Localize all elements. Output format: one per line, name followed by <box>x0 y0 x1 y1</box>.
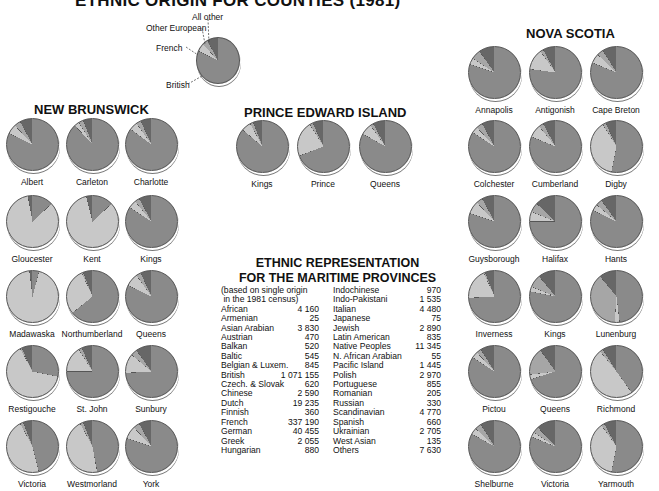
origin-count: 7 630 <box>419 446 441 455</box>
pie-chart <box>236 120 289 173</box>
pie-chart <box>468 420 521 473</box>
county-label: Richmond <box>577 404 655 414</box>
pie-chart <box>590 345 643 398</box>
heading-new-brunswick: NEW BRUNSWICK <box>34 102 149 117</box>
pie-chart <box>468 195 521 248</box>
table-left-column: (based on single origin in the 1981 cens… <box>221 286 319 455</box>
county-pie-nova-scotia-cape-breton: Cape Breton <box>587 46 645 115</box>
county-pie-nova-scotia-colchester: Colchester <box>465 120 523 189</box>
pie-chart <box>590 46 643 99</box>
pie-chart <box>66 270 119 323</box>
county-pie-new-brunswick-charlotte: Charlotte <box>122 118 180 187</box>
pie-chart <box>6 345 59 398</box>
county-pie-new-brunswick-sunbury: Sunbury <box>122 345 180 414</box>
county-pie-nova-scotia-cumberland: Cumberland <box>526 120 584 189</box>
pie-chart <box>529 345 582 398</box>
county-pie-new-brunswick-queens: Queens <box>122 270 180 339</box>
pie-chart <box>6 118 59 171</box>
pie-chart <box>66 420 119 473</box>
table-row: Others7 630 <box>333 446 441 455</box>
pie-chart <box>590 195 643 248</box>
pie-chart <box>125 195 178 248</box>
county-label: Digby <box>577 179 655 189</box>
pie-chart <box>125 118 178 171</box>
pie-chart <box>590 270 643 323</box>
pie-chart <box>590 420 643 473</box>
pie-chart <box>529 420 582 473</box>
county-pie-prince-edward-island-prince: Prince <box>294 120 352 189</box>
county-pie-nova-scotia-queens: Queens <box>526 345 584 414</box>
county-label: Queens <box>346 179 424 189</box>
table-row: Hungarian880 <box>221 446 319 455</box>
pie-chart <box>468 270 521 323</box>
county-label: Hants <box>577 254 655 264</box>
county-pie-prince-edward-island-queens: Queens <box>356 120 414 189</box>
county-pie-nova-scotia-yarmouth: Yarmouth <box>587 420 645 489</box>
table-title: ETHNIC REPRESENTATION FOR THE MARITIME P… <box>220 256 455 286</box>
county-label: Lunenburg <box>577 329 655 339</box>
county-pie-nova-scotia-hants: Hants <box>587 195 645 264</box>
county-pie-nova-scotia-digby: Digby <box>587 120 645 189</box>
county-pie-nova-scotia-pictou: Pictou <box>465 345 523 414</box>
pie-chart <box>6 420 59 473</box>
table-title-line1: ETHNIC REPRESENTATION <box>220 256 455 271</box>
pie-chart <box>468 46 521 99</box>
pie-chart <box>6 195 59 248</box>
county-pie-nova-scotia-guysborough: Guysborough <box>465 195 523 264</box>
pie-chart <box>66 118 119 171</box>
county-pie-prince-edward-island-kings: Kings <box>233 120 291 189</box>
county-pie-nova-scotia-victoria: Victoria <box>526 420 584 489</box>
pie-chart <box>468 345 521 398</box>
county-pie-new-brunswick-kings: Kings <box>122 195 180 264</box>
table-title-line2: FOR THE MARITIME PROVINCES <box>220 271 455 286</box>
county-pie-nova-scotia-inverness: Inverness <box>465 270 523 339</box>
county-label: Queens <box>112 329 190 339</box>
county-pie-nova-scotia-annapolis: Annapolis <box>465 46 523 115</box>
pie-chart <box>125 420 178 473</box>
heading-prince-edward-island: PRINCE EDWARD ISLAND <box>244 105 407 120</box>
heading-nova-scotia: NOVA SCOTIA <box>526 26 615 41</box>
pie-chart <box>529 195 582 248</box>
origin-count: 880 <box>305 446 319 455</box>
pie-chart <box>66 345 119 398</box>
origin-name: Others <box>333 446 359 455</box>
county-label: York <box>112 479 190 489</box>
county-pie-nova-scotia-shelburne: Shelburne <box>465 420 523 489</box>
county-label: Charlotte <box>112 177 190 187</box>
origin-name: Hungarian <box>221 446 261 455</box>
pie-chart <box>468 120 521 173</box>
pie-chart <box>297 120 350 173</box>
pie-chart <box>529 270 582 323</box>
table-right-column: Indochinese970Indo-Pakistani1 535Italian… <box>333 286 441 455</box>
pie-chart <box>125 345 178 398</box>
county-label: Yarmouth <box>577 479 655 489</box>
county-pie-new-brunswick-york: York <box>122 420 180 489</box>
county-pie-nova-scotia-antigonish: Antigonish <box>526 46 584 115</box>
county-pie-nova-scotia-lunenburg: Lunenburg <box>587 270 645 339</box>
pie-chart <box>6 270 59 323</box>
county-pie-nova-scotia-halifax: Halifax <box>526 195 584 264</box>
pie-chart <box>66 195 119 248</box>
county-pie-nova-scotia-kings: Kings <box>526 270 584 339</box>
county-label: Sunbury <box>112 404 190 414</box>
pie-chart <box>590 120 643 173</box>
county-label: Kings <box>112 254 190 264</box>
county-pie-nova-scotia-richmond: Richmond <box>587 345 645 414</box>
pie-chart <box>359 120 412 173</box>
pie-chart <box>529 46 582 99</box>
pie-chart <box>125 270 178 323</box>
county-label: Cape Breton <box>577 105 655 115</box>
pie-chart <box>529 120 582 173</box>
